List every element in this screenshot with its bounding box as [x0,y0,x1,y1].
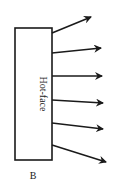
hot-face-label: Hot-face [38,77,48,112]
radiation-arrow-4 [52,100,103,103]
radiation-arrows [52,17,106,162]
radiation-arrow-5 [52,123,103,129]
radiation-arrow-6 [52,145,106,162]
radiation-arrow-2 [52,48,101,53]
figure-label: B [30,171,37,181]
radiation-arrow-1 [52,17,91,33]
heat-radiation-diagram [0,0,115,191]
